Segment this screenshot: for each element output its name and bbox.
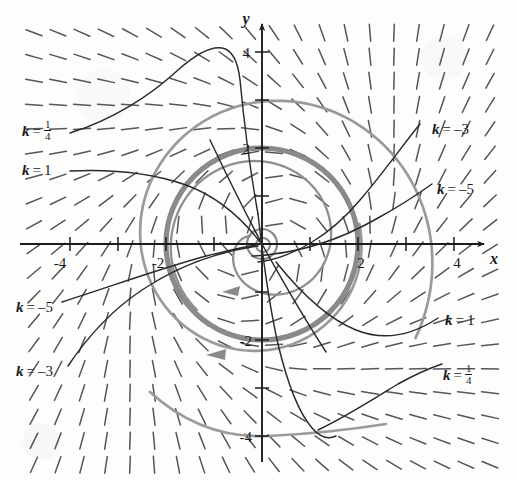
slope-field-dash	[242, 365, 258, 372]
y-tick-label-4: 4	[243, 45, 251, 61]
slope-field-dash	[369, 192, 372, 209]
slope-field-dash	[434, 415, 450, 419]
curve-label-equals: =	[454, 368, 462, 383]
slope-field-dash	[147, 28, 162, 37]
x-tick-label--4: -4	[54, 255, 67, 271]
slope-field-dash	[362, 368, 379, 369]
slope-field-dash	[80, 409, 85, 425]
slope-field-dash	[100, 218, 111, 231]
slope-field-dash	[75, 196, 90, 205]
slope-field-dash	[218, 77, 233, 85]
slope-field-dash	[176, 433, 180, 450]
slope-field-dash	[434, 293, 449, 301]
slope-field-dash	[170, 53, 185, 61]
slope-field-dash	[26, 79, 43, 82]
slope-field-dash	[388, 291, 401, 302]
slope-field-dash	[174, 337, 182, 352]
slope-field-dash	[434, 438, 450, 444]
slope-field-dash	[153, 432, 155, 449]
slope-field-dash	[482, 294, 498, 300]
slope-field-dash	[50, 151, 67, 154]
slope-field-dash	[55, 457, 61, 473]
curve-label-symbol: k	[437, 182, 445, 197]
fraction-denominator: 4	[465, 374, 473, 386]
slope-field-dash	[482, 438, 498, 443]
slope-field-dash	[410, 415, 426, 420]
slope-field-dash	[225, 216, 226, 233]
slope-field-dash	[269, 458, 279, 471]
slope-field-dash	[195, 292, 208, 303]
x-tick-label--2: -2	[152, 255, 165, 271]
slope-field-dash	[198, 409, 205, 424]
slope-field-dash	[194, 128, 211, 130]
slope-field-dash	[149, 194, 159, 208]
slope-field-dash	[26, 55, 42, 60]
slope-field-dash	[26, 104, 43, 105]
slope-field-dash	[122, 128, 139, 130]
slope-field-dash	[319, 25, 325, 41]
fraction-numerator: 1	[44, 119, 52, 130]
slope-field-dash	[50, 54, 66, 59]
slope-field-dash	[194, 149, 209, 156]
slope-field-dash	[152, 360, 155, 377]
slope-field-dash	[414, 217, 422, 232]
slope-field-dash	[126, 218, 135, 233]
slope-field-dash	[196, 267, 208, 279]
slope-field-dash	[410, 438, 426, 444]
slope-field-dash	[268, 75, 281, 86]
slope-field-dash	[387, 460, 402, 469]
slope-field-dash	[486, 73, 494, 88]
slope-field-dash	[77, 266, 87, 280]
slope-field-dash	[175, 361, 182, 377]
slope-field-dash	[482, 462, 498, 469]
slope-field-dash	[463, 49, 469, 65]
slope-field-dash	[410, 392, 427, 394]
slope-field-dash	[291, 221, 306, 229]
slope-field-dash	[170, 78, 186, 83]
slope-field-dash	[458, 461, 474, 468]
slope-field-dash	[194, 78, 210, 84]
slope-field-dash	[482, 392, 499, 394]
slope-field-dash	[202, 216, 203, 233]
slope-field-dash	[195, 27, 208, 38]
slope-field-dash	[344, 24, 348, 41]
slope-field-dash	[27, 221, 42, 229]
slope-field-dash	[439, 145, 446, 161]
slope-field-dash	[243, 76, 257, 85]
slope-field-dash	[458, 415, 475, 419]
y-tick-label--2: -2	[240, 333, 253, 349]
slope-field-dash	[294, 50, 303, 64]
slope-field-dash	[338, 391, 355, 394]
slope-field-dash	[342, 170, 351, 185]
slope-field-dash	[362, 342, 378, 347]
slope-field-dash	[486, 25, 493, 40]
slope-field-dash	[54, 361, 62, 376]
slope-field-dash	[30, 409, 38, 424]
slope-field-dash	[338, 342, 354, 347]
slope-field-dash	[411, 461, 426, 469]
slope-field-dash	[242, 271, 259, 275]
slope-field-dash	[170, 128, 187, 130]
slope-field-dash	[292, 459, 304, 471]
x-axis-label: x	[489, 250, 498, 267]
slope-field-dash	[122, 79, 139, 83]
curve-label-equals: =	[448, 182, 456, 197]
slope-field-dash	[266, 176, 283, 178]
slope-field-dash	[130, 312, 131, 329]
curve-label-symbol: k	[443, 368, 451, 383]
slope-field-dash	[293, 74, 304, 87]
slope-field-dash	[269, 26, 278, 40]
slope-field-dash	[51, 220, 65, 229]
slope-field-dash	[80, 433, 85, 449]
slope-field-dash	[53, 314, 62, 328]
slope-field-dash	[459, 269, 474, 278]
slope-field-dash	[368, 168, 372, 185]
slope-field-dash	[266, 224, 283, 226]
curve-label-symbol: k	[16, 300, 24, 315]
slope-field-dash	[218, 318, 234, 323]
slope-field-dash	[29, 314, 40, 327]
fraction-numerator: 1	[465, 363, 473, 374]
slope-field-dash	[244, 411, 256, 423]
slope-field-dash	[319, 49, 326, 65]
slope-field-dash	[218, 270, 234, 276]
